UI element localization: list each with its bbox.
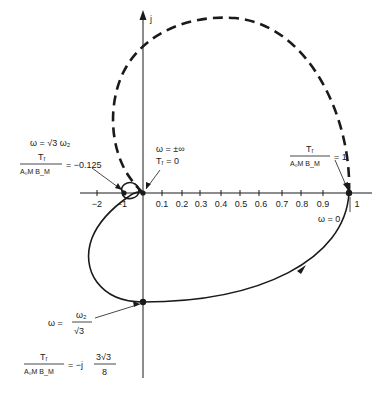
tick-label: 0.8 [296,199,309,209]
svg-text:3√3: 3√3 [96,352,111,362]
svg-text:Tᵣ: Tᵣ [306,144,314,154]
svg-text:ω = ±∞: ω = ±∞ [156,144,185,154]
svg-text:ω = 0: ω = 0 [318,214,340,224]
svg-text:ω = √3 ω₂: ω = √3 ω₂ [30,138,71,148]
svg-text:8: 8 [102,367,107,377]
tick-labels: −2 −1 0.1 0.2 0.3 0.4 0.5 0.6 0.7 0.8 0.… [92,199,360,209]
tick-label: 1 [354,199,359,209]
leader-arrow-icon [115,183,122,190]
svg-text:ω =: ω = [48,318,63,328]
tick-label: 0.3 [195,199,208,209]
imag-axis-label: j [149,14,152,24]
point-omega-infinity [140,190,145,195]
leader-lines [92,160,350,318]
svg-text:= 1: = 1 [334,152,347,162]
svg-text:Tᵣ: Tᵣ [38,152,46,162]
svg-text:Tᵣ: Tᵣ [40,352,48,362]
tick-label: 0.1 [156,199,169,209]
annotation-right: Tᵣ A₀M B_M = 1 ω = 0 [290,144,347,224]
svg-text:A₀M B_M: A₀M B_M [290,160,320,168]
point-omega2-over-sqrt3 [140,299,146,305]
annotation-center: ω = ±∞ Tᵣ = 0 [156,144,185,166]
point-omega-zero [346,190,352,196]
annotation-left: ω = √3 ω₂ Tᵣ A₀M B_M = −0.125 [20,138,102,176]
svg-text:= −0.125: = −0.125 [66,160,102,170]
point-sqrt3-omega2 [121,190,126,195]
polar-plot: j −2 −1 0.1 0.2 0.3 0.4 0.5 0.6 0.7 0.8 … [0,0,382,405]
svg-text:√3: √3 [74,326,84,336]
tick-label: 0.2 [176,199,189,209]
tick-label: 0.6 [255,199,268,209]
tick-label: 0.7 [276,199,289,209]
tick-label: −2 [92,199,102,209]
svg-text:Tᵣ = 0: Tᵣ = 0 [156,156,179,166]
imag-axis-arrow-icon [140,10,147,20]
annotation-bottom: ω = ω₂ √3 Tᵣ A₀M B_M = −j 3√3 8 [24,310,116,377]
leader-arrow-icon [343,182,348,190]
svg-text:A₀M B_M: A₀M B_M [24,368,54,376]
tick-label: 0.4 [215,199,228,209]
tick-label: 0.9 [317,199,330,209]
svg-text:= −j: = −j [68,360,83,370]
tick-label: 0.5 [235,199,248,209]
svg-text:ω₂: ω₂ [76,310,87,320]
svg-text:A₀M B_M: A₀M B_M [20,168,50,176]
